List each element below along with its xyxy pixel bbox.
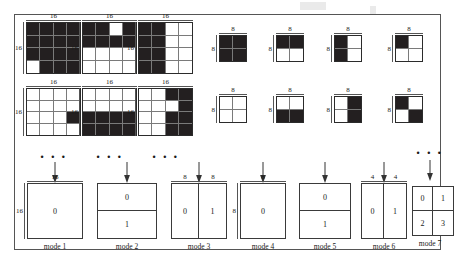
mode-6-part-1[interactable]: 1 bbox=[384, 184, 406, 238]
mode-1-box[interactable]: 0 bbox=[27, 183, 83, 239]
block-16-2-top-dim: 16 bbox=[106, 12, 113, 20]
cell-empty bbox=[179, 48, 192, 61]
mode-5-part-1[interactable]: 1 bbox=[300, 211, 350, 238]
cell-filled bbox=[40, 48, 53, 61]
cell-filled bbox=[348, 97, 361, 110]
cell-empty bbox=[220, 110, 233, 123]
cell-filled bbox=[152, 23, 165, 36]
cell-filled bbox=[54, 61, 67, 74]
block-16-2-top-tick bbox=[82, 20, 137, 21]
cell-empty bbox=[179, 36, 192, 49]
mode-1-part-0[interactable]: 0 bbox=[28, 184, 82, 238]
mode-6-label: mode 6 bbox=[373, 242, 395, 251]
cell-empty bbox=[54, 89, 67, 101]
cell-filled bbox=[152, 48, 165, 61]
mode-6-top-dim-0: 4 bbox=[371, 173, 375, 181]
block-8-3-top-tick bbox=[334, 33, 362, 34]
mode-3-box[interactable]: 01 bbox=[171, 183, 227, 239]
block-16-4-left-dim: 16 bbox=[15, 108, 23, 116]
block-8-7 bbox=[334, 96, 362, 123]
block-16-5-left-dim: 16 bbox=[71, 108, 79, 116]
cell-empty bbox=[40, 112, 53, 124]
block-16-3-top-tick bbox=[138, 20, 193, 21]
mode-1-label: mode 1 bbox=[44, 242, 66, 251]
mode-6-part-0[interactable]: 0 bbox=[362, 184, 384, 238]
block-8-4-left-tick bbox=[392, 35, 393, 62]
cell-filled bbox=[139, 48, 152, 61]
block-8-8-top-tick bbox=[395, 94, 423, 95]
block-16-6-top-dim: 16 bbox=[162, 78, 169, 86]
block-8-5 bbox=[219, 96, 247, 123]
cell-filled bbox=[220, 49, 233, 62]
cell-filled bbox=[335, 49, 348, 62]
cell-empty bbox=[96, 61, 109, 74]
mode-2-box[interactable]: 01 bbox=[97, 183, 157, 239]
mode-4-part-0[interactable]: 0 bbox=[241, 184, 285, 238]
block-8-1-top-dim: 8 bbox=[231, 25, 235, 33]
cell-filled bbox=[27, 23, 40, 36]
block-16-6 bbox=[138, 88, 193, 136]
mode-4-box[interactable]: 0 bbox=[240, 183, 286, 239]
cell-empty bbox=[83, 89, 96, 101]
cell-empty bbox=[110, 61, 123, 74]
cell-filled bbox=[152, 36, 165, 49]
mode-3-label: mode 3 bbox=[188, 242, 210, 251]
cell-empty bbox=[277, 49, 290, 62]
mode-7-box[interactable]: 0123 bbox=[412, 186, 454, 236]
mode-3-part-1[interactable]: 1 bbox=[199, 184, 226, 238]
cell-filled bbox=[110, 124, 123, 136]
block-8-7-left-tick bbox=[331, 96, 332, 123]
cell-filled bbox=[166, 124, 179, 136]
block-8-1-top-tick bbox=[219, 33, 247, 34]
block-16-6-top-tick bbox=[138, 86, 193, 87]
cell-empty bbox=[409, 49, 422, 62]
mode-5-label: mode 5 bbox=[314, 242, 336, 251]
mode-7-label: mode 7 bbox=[419, 239, 441, 248]
cell-filled bbox=[396, 97, 409, 110]
cell-empty bbox=[83, 48, 96, 61]
mode-7-part-0[interactable]: 0 bbox=[413, 187, 433, 211]
cell-empty bbox=[335, 97, 348, 110]
cell-empty bbox=[110, 48, 123, 61]
block-8-6 bbox=[276, 96, 304, 123]
cell-filled bbox=[139, 61, 152, 74]
block-16-2-left-tick bbox=[79, 22, 80, 74]
cell-empty bbox=[27, 124, 40, 136]
cell-empty bbox=[27, 112, 40, 124]
cell-filled bbox=[83, 124, 96, 136]
cell-empty bbox=[40, 124, 53, 136]
cell-filled bbox=[40, 36, 53, 49]
mode-3-part-0[interactable]: 0 bbox=[172, 184, 199, 238]
cell-filled bbox=[220, 36, 233, 49]
cell-filled bbox=[335, 36, 348, 49]
mode-7-part-3[interactable]: 3 bbox=[433, 211, 453, 235]
mode-5-box[interactable]: 01 bbox=[299, 183, 351, 239]
cell-empty bbox=[110, 23, 123, 36]
cell-empty bbox=[139, 89, 152, 101]
mode-4-label: mode 4 bbox=[252, 242, 274, 251]
mode-2-part-0[interactable]: 0 bbox=[98, 184, 156, 211]
cell-empty bbox=[40, 89, 53, 101]
cell-empty bbox=[396, 49, 409, 62]
block-16-6-left-tick bbox=[135, 88, 136, 136]
cell-empty bbox=[166, 61, 179, 74]
cell-empty bbox=[152, 101, 165, 113]
block-8-2-top-dim: 8 bbox=[288, 25, 292, 33]
cell-empty bbox=[27, 61, 40, 74]
mode-7-part-1[interactable]: 1 bbox=[433, 187, 453, 211]
mode-5-part-0[interactable]: 0 bbox=[300, 184, 350, 211]
cell-filled bbox=[96, 23, 109, 36]
cell-empty bbox=[96, 48, 109, 61]
mode-7-part-2[interactable]: 2 bbox=[413, 211, 433, 235]
cell-empty bbox=[83, 61, 96, 74]
cell-filled bbox=[233, 36, 246, 49]
mode-2-part-1[interactable]: 1 bbox=[98, 211, 156, 238]
cell-empty bbox=[96, 101, 109, 113]
cell-empty bbox=[54, 124, 67, 136]
mode-6-box[interactable]: 01 bbox=[361, 183, 407, 239]
cell-filled bbox=[54, 23, 67, 36]
cell-empty bbox=[290, 49, 303, 62]
cell-empty bbox=[220, 97, 233, 110]
block-8-3 bbox=[334, 35, 362, 62]
mode-3-top-tick-0 bbox=[171, 181, 199, 182]
